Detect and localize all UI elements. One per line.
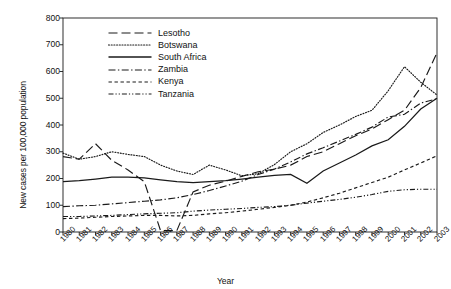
x-tick-label: 1993 xyxy=(270,225,288,243)
x-tick-label: 2003 xyxy=(433,225,451,243)
legend-line-swatch xyxy=(108,40,152,50)
x-tick-label: 1980 xyxy=(59,225,77,243)
legend-line-swatch xyxy=(108,89,152,99)
x-tick-label: 2002 xyxy=(416,225,434,243)
x-tick-label: 1983 xyxy=(107,225,125,243)
legend-line-swatch xyxy=(108,77,152,87)
x-tick-label: 2001 xyxy=(400,225,418,243)
x-tick-label: 1991 xyxy=(237,225,255,243)
legend-label: Lesotho xyxy=(158,29,190,38)
x-tick-label: 1987 xyxy=(172,225,190,243)
legend-label: Botswana xyxy=(158,41,198,50)
x-tick-label: 1984 xyxy=(124,225,142,243)
x-tick-label: 1988 xyxy=(189,225,207,243)
x-axis-title: Year xyxy=(0,276,451,286)
legend-item-south-africa: South Africa xyxy=(108,51,248,63)
x-tick-label: 1995 xyxy=(302,225,320,243)
x-tick-label: 1994 xyxy=(286,225,304,243)
legend-item-zambia: Zambia xyxy=(108,64,248,76)
legend-label: Kenya xyxy=(158,77,184,86)
x-tick-label: 1999 xyxy=(367,225,385,243)
x-tick-label: 2000 xyxy=(384,225,402,243)
legend-item-lesotho: Lesotho xyxy=(108,27,248,39)
legend-line-swatch xyxy=(108,28,152,38)
legend-line-swatch xyxy=(108,65,152,75)
legend-item-botswana: Botswana xyxy=(108,39,248,51)
x-tick-label: 1990 xyxy=(221,225,239,243)
legend-label: Tanzania xyxy=(158,90,194,99)
legend-item-tanzania: Tanzania xyxy=(108,88,248,100)
x-tick-label: 1992 xyxy=(254,225,272,243)
x-tick-label: 1981 xyxy=(75,225,93,243)
x-tick-label: 1989 xyxy=(205,225,223,243)
legend-item-kenya: Kenya xyxy=(108,76,248,88)
y-axis-title: New cases per 100,000 population xyxy=(18,35,28,255)
x-tick-label: 1982 xyxy=(91,225,109,243)
tb-incidence-line-chart: 0100200300400500600700800 19801981198219… xyxy=(0,0,451,289)
legend-label: Zambia xyxy=(158,65,188,74)
legend-line-swatch xyxy=(108,52,152,62)
x-tick-label: 1998 xyxy=(351,225,369,243)
chart-legend: LesothoBotswanaSouth AfricaZambiaKenyaTa… xyxy=(108,27,248,100)
x-tick-label: 1996 xyxy=(319,225,337,243)
legend-label: South Africa xyxy=(158,53,207,62)
x-tick-label: 1986 xyxy=(156,225,174,243)
x-tick-label: 1985 xyxy=(140,225,158,243)
x-tick-label: 1997 xyxy=(335,225,353,243)
